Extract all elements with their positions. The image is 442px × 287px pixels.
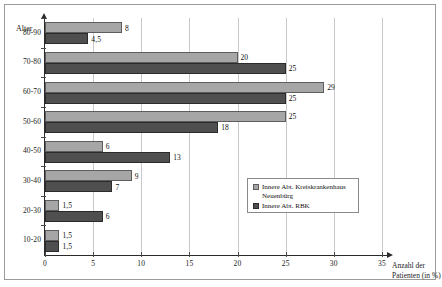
bar-value-label: 7: [115, 183, 119, 192]
bar-value-label: 6: [106, 142, 110, 151]
bar-value-label: 1,5: [62, 242, 72, 251]
bar: [45, 141, 103, 152]
bar: [45, 181, 112, 192]
x-axis-tick-label: 5: [81, 259, 105, 268]
y-axis-tick: [41, 18, 46, 19]
bar-value-label: 25: [289, 64, 297, 73]
y-axis-category-label: 30-40: [1, 176, 41, 185]
legend-label-neuenbuerg-line1: Innere Abt. Kreiskrankenhaus: [262, 183, 346, 191]
y-axis-tick: [41, 48, 46, 49]
x-axis-tick: [45, 252, 46, 257]
y-axis-tick: [41, 166, 46, 167]
legend-swatch-dark-icon: [253, 203, 259, 209]
bar: [45, 230, 59, 241]
bar: [45, 63, 286, 74]
bar-chart: Alter 05101520253035 80-9070-8060-7050-6…: [0, 0, 442, 287]
bar: [45, 33, 88, 44]
y-axis-category-label: 40-50: [1, 146, 41, 155]
x-axis-tick: [334, 252, 335, 257]
bar: [45, 200, 59, 211]
legend-item-neuenbuerg: Innere Abt. Kreiskrankenhaus Neuenbürg: [253, 183, 353, 200]
x-axis-tick: [93, 252, 94, 257]
bar: [45, 211, 103, 222]
y-axis-tick: [41, 137, 46, 138]
bar-value-label: 1,5: [62, 201, 72, 210]
gridline: [286, 18, 287, 255]
x-axis-tick-label: 20: [226, 259, 250, 268]
y-axis-tick: [41, 107, 46, 108]
x-axis-tick-label: 0: [33, 259, 57, 268]
bar-value-label: 1,5: [62, 231, 72, 240]
x-axis-tick-label: 10: [129, 259, 153, 268]
bar-value-label: 25: [289, 94, 297, 103]
bar: [45, 152, 170, 163]
y-axis-category-label: 60-70: [1, 87, 41, 96]
bar: [45, 52, 238, 63]
x-axis-title-line2: Patienten (in %): [392, 271, 442, 281]
bar: [45, 82, 324, 93]
x-axis-tick-label: 30: [322, 259, 346, 268]
x-axis-tick: [286, 252, 287, 257]
x-axis-title-line1: Anzahl der: [392, 261, 442, 271]
bar: [45, 22, 122, 33]
x-axis-tick-label: 15: [177, 259, 201, 268]
bar: [45, 93, 286, 104]
x-axis-arrow: [387, 252, 393, 258]
bar-value-label: 8: [125, 24, 129, 33]
gridline: [238, 18, 239, 255]
bar-value-label: 4,5: [91, 35, 101, 44]
bar-value-label: 25: [289, 112, 297, 121]
legend-swatch-light-icon: [253, 184, 259, 190]
x-axis-title: Anzahl der Patienten (in %): [392, 261, 442, 280]
y-axis-category-label: 20-30: [1, 206, 41, 215]
bar-value-label: 20: [241, 53, 249, 62]
legend-label-neuenbuerg-line2: Neuenbürg: [262, 192, 293, 200]
x-axis-tick: [141, 252, 142, 257]
bar-value-label: 29: [327, 83, 335, 92]
bar: [45, 111, 286, 122]
y-axis-tick: [41, 196, 46, 197]
bar-value-label: 6: [106, 212, 110, 221]
legend-label-rbk: Innere Abt. RBK: [262, 202, 310, 211]
y-axis-category-label: 50-60: [1, 117, 41, 126]
bar-value-label: 13: [173, 153, 181, 162]
chart-legend: Innere Abt. Kreiskrankenhaus Neuenbürg I…: [247, 178, 359, 213]
y-axis-tick: [41, 225, 46, 226]
bar: [45, 241, 59, 252]
legend-item-rbk: Innere Abt. RBK: [253, 202, 353, 211]
bar-value-label: 9: [135, 172, 139, 181]
gridline: [334, 18, 335, 255]
legend-label-neuenbuerg: Innere Abt. Kreiskrankenhaus Neuenbürg: [262, 183, 346, 200]
y-axis-category-label: 10-20: [1, 235, 41, 244]
x-axis-tick: [238, 252, 239, 257]
x-axis-tick: [382, 252, 383, 257]
y-axis-category-label: 70-80: [1, 57, 41, 66]
gridline: [382, 18, 383, 255]
y-axis-tick: [41, 77, 46, 78]
y-axis-category-label: 80-90: [1, 28, 41, 37]
x-axis-line: [44, 255, 388, 256]
x-axis-tick-label: 35: [370, 259, 394, 268]
bar: [45, 170, 132, 181]
bar: [45, 122, 218, 133]
x-axis-tick-label: 25: [274, 259, 298, 268]
bar-value-label: 18: [221, 123, 229, 132]
x-axis-tick: [189, 252, 190, 257]
